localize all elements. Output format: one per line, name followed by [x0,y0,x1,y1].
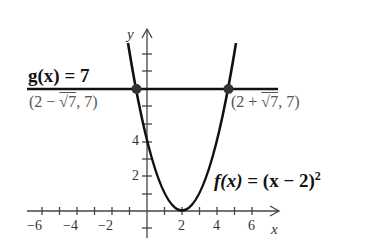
intersection-label-right: (2 + √7, 7) [231,94,299,110]
y-axis [142,29,152,238]
x-tick-label: 2 [178,219,185,233]
graph-canvas [0,0,371,252]
x-tick-label: −6 [27,219,42,233]
y-axis-label: y [127,27,134,42]
x-axis [27,206,279,216]
f-function-label: f(x) = (x − 2)2 [214,170,321,190]
x-tick-label: 6 [248,219,255,233]
intersection-point-left [132,84,142,94]
y-tick-label: 4 [132,134,139,148]
x-axis-label: x [271,222,278,237]
g-function-label: g(x) = 7 [28,66,89,85]
x-tick-label: −2 [98,219,113,233]
x-tick-label: −4 [63,219,78,233]
x-tick-label: 4 [213,219,220,233]
y-tick-label: 2 [132,169,139,183]
intersection-label-left: (2 − √7, 7) [29,94,97,110]
